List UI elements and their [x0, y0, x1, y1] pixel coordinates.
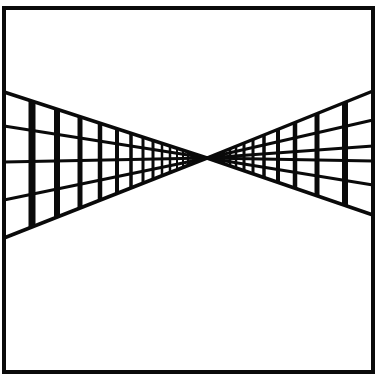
perspective-grid-figure — [0, 0, 382, 379]
